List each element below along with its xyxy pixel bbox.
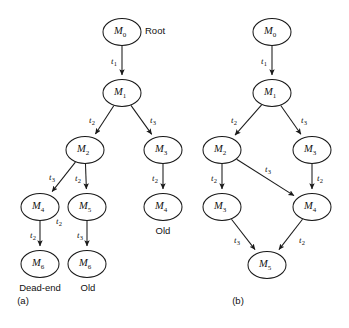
edge-label-b-m2-to-b-m4: t3 [265,164,271,175]
figure-container: t1t2t3t3t2t2t2t3t2M0M1M2M3M4M5M4M6M6Root… [0,0,349,328]
edge-label-b-m4-to-b-m5: t2 [299,235,305,246]
node-a-m5[interactable]: M5 [68,194,106,221]
node-a-m0[interactable]: M0 [103,19,141,46]
edge-a-m2-to-a-m5 [85,164,86,189]
edge-a-m1-to-a-m2 [95,106,113,134]
edge-a-m2-to-a-m4 [52,162,75,192]
node-b-m3[interactable]: M3 [293,137,331,164]
node-b-m4[interactable]: M4 [293,194,331,221]
annotation-root: Root [145,25,165,36]
edge-label-a-m4-to-a-m6: t2 [30,230,36,241]
edge-label-a-m2-to-a-m4: t3 [49,172,55,183]
node-b-m3b[interactable]: M3 [203,194,241,221]
node-b-m1[interactable]: M1 [253,80,291,107]
edge-label-a-m3-to-a-m4b: t2 [152,173,158,184]
node-b-m2[interactable]: M2 [203,137,241,164]
edge-a-m1-to-a-m3 [131,105,152,134]
edge-label-b-m0-to-b-m1: t1 [261,56,267,67]
edge-label-a-m1-to-a-m3: t3 [150,115,156,126]
edge-label-b-m3-to-b-m4: t2 [317,173,323,184]
edge-b-m1-to-b-m2 [235,105,262,135]
edge-label-b-m1-to-b-m2: t2 [231,115,237,126]
node-a-m1[interactable]: M1 [103,80,141,107]
node-a-m6[interactable]: M6 [21,251,59,278]
edge-label-a-m5-to-a-m6b: t3 [77,230,83,241]
node-b-m5[interactable]: M5 [248,252,286,279]
node-a-m4[interactable]: M4 [21,194,59,221]
node-a-m2[interactable]: M2 [66,137,104,164]
annotation-old: Old [156,225,171,236]
node-a-m4b[interactable]: M4 [144,194,182,221]
edge-label-a-m1-to-a-m2: t2 [89,115,95,126]
edge-label-b-m1-to-b-m3: t3 [301,115,307,126]
subdiagram-b: t1t2t3t2t3t2t3t2M0M1M2M3M3M4M5(b) [203,19,331,306]
edge-label-a-m0-to-a-m1: t1 [111,56,117,67]
edge-label-a-m2-to-a-m5: t2 [75,173,81,184]
stray-transition-label-a-0: t2 [56,216,62,227]
node-a-m3[interactable]: M3 [144,137,182,164]
edge-label-b-m3b-to-b-m5: t3 [234,235,240,246]
reachability-graphs-svg: t1t2t3t3t2t2t2t3t2M0M1M2M3M4M5M4M6M6Root… [0,0,349,328]
subdiagram-a: t1t2t3t3t2t2t2t3t2M0M1M2M3M4M5M4M6M6Root… [17,19,182,306]
edge-b-m1-to-b-m3 [281,105,301,134]
caption-a: (a) [17,295,29,306]
node-a-m6b[interactable]: M6 [68,251,106,278]
annotation-dead-end: Dead-end [19,282,61,293]
caption-b: (b) [232,295,244,306]
annotation-old: Old [81,282,96,293]
edge-label-b-m2-to-b-m3b: t2 [211,173,217,184]
node-b-m0[interactable]: M0 [253,19,291,46]
